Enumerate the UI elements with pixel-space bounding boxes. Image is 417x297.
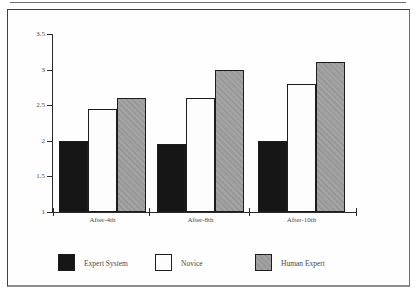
legend-label-novice: Novice xyxy=(181,258,203,267)
legend-label-human-expert: Human Expert xyxy=(281,258,325,267)
bar-novice xyxy=(287,84,316,212)
scan-edge-line xyxy=(10,2,406,3)
y-axis-tick xyxy=(47,176,53,177)
y-axis-tick xyxy=(47,141,53,142)
y-axis-tick-label: 1.5 xyxy=(27,173,45,180)
figure-frame: 11.522.533.5After-4thAfter-8thAfter-10th… xyxy=(7,9,410,287)
bar-novice xyxy=(186,98,215,212)
x-axis-label: After-8th xyxy=(161,216,241,224)
x-axis-tick xyxy=(53,208,54,216)
y-axis-tick xyxy=(47,34,53,35)
bar-expert-system xyxy=(59,141,88,212)
y-axis-tick-label: 3 xyxy=(27,66,45,73)
bar-human-expert xyxy=(215,70,244,212)
legend-label-expert-system: Expert System xyxy=(84,258,128,267)
x-axis-tick xyxy=(149,208,150,216)
y-axis-tick-label: 2 xyxy=(27,137,45,144)
y-axis-tick-label: 3.5 xyxy=(27,31,45,38)
legend-swatch-expert-system xyxy=(58,254,75,271)
plot-area: 11.522.533.5After-4thAfter-8thAfter-10th xyxy=(52,34,356,213)
bar-expert-system xyxy=(258,141,287,212)
legend-swatch-human-expert xyxy=(255,254,272,271)
legend-swatch-novice xyxy=(155,254,172,271)
bar-expert-system xyxy=(157,144,186,212)
y-axis-tick-label: 1 xyxy=(27,209,45,216)
bar-human-expert xyxy=(316,62,345,212)
x-axis-tick xyxy=(356,208,357,216)
bar-human-expert xyxy=(117,98,146,212)
scanned-figure-page: { "figure": { "background": "#fefefe", "… xyxy=(0,0,417,297)
y-axis-tick-label: 2.5 xyxy=(27,102,45,109)
x-axis-label: After-4th xyxy=(63,216,143,224)
y-axis-tick xyxy=(47,105,53,106)
x-axis-tick xyxy=(249,208,250,216)
bar-novice xyxy=(88,109,117,212)
x-axis-label: After-10th xyxy=(262,216,342,224)
y-axis-tick xyxy=(47,70,53,71)
